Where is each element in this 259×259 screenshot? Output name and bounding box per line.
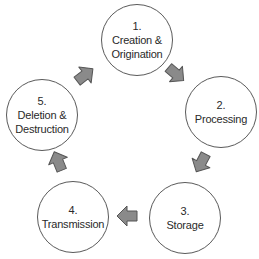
node-number: 4. [69,203,78,217]
arrow-processing-to-storage-icon [186,148,216,178]
arrow-transmission-to-deletion-icon [44,147,73,176]
node-processing: 2. Processing [185,76,257,148]
arrow-storage-to-transmission-icon [116,205,138,227]
node-number: 3. [181,204,190,218]
arrow-deletion-to-creation-icon [70,60,101,91]
node-label: Creation & Origination [112,33,163,61]
arrow-creation-to-processing-icon [161,59,192,90]
lifecycle-diagram: 1. Creation & Origination 2. Processing … [0,0,259,259]
node-deletion-destruction: 5. Deletion & Destruction [6,79,78,151]
node-label: Deletion & Destruction [15,108,68,136]
node-storage: 3. Storage [149,182,221,254]
node-label: Transmission [42,217,105,231]
node-transmission: 4. Transmission [37,181,109,253]
node-label: Processing [195,112,247,126]
node-number: 5. [38,94,47,108]
node-label: Storage [166,218,203,232]
node-creation-origination: 1. Creation & Origination [101,4,173,76]
node-number: 2. [217,98,226,112]
node-number: 1. [133,19,142,33]
